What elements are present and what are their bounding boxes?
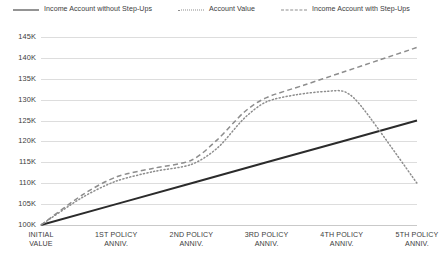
x-axis-tick-label-line2: ANNIV. xyxy=(78,240,154,249)
y-axis-tick-label: 125K xyxy=(2,117,36,124)
legend-item-income-account-without-step-ups: Income Account without Step-Ups xyxy=(13,6,152,13)
x-axis-tick-label-line2: ANNIV. xyxy=(304,240,380,249)
y-axis-tick-label: 110K xyxy=(2,179,36,186)
legend-swatch-dashed-icon xyxy=(281,6,307,13)
series-lines xyxy=(41,37,417,225)
x-axis-tick-label-line1: 5TH POLICY xyxy=(379,231,443,240)
y-axis-tick-label: 115K xyxy=(2,158,36,165)
x-axis: INITIALVALUE1ST POLICYANNIV.2ND POLICYAN… xyxy=(41,231,417,257)
legend-item-income-account-with-step-ups: Income Account with Step-Ups xyxy=(281,6,410,13)
series-line-dotted xyxy=(41,91,417,225)
y-axis-tick-label: 130K xyxy=(2,96,36,103)
y-axis-tick-label: 140K xyxy=(2,54,36,61)
x-axis-tick-label-line1: 3RD POLICY xyxy=(229,231,305,240)
x-axis-tick-label-line2: ANNIV. xyxy=(229,240,305,249)
x-axis-tick-label-line2: VALUE xyxy=(3,240,79,249)
y-axis-tick-label: 100K xyxy=(2,221,36,228)
x-axis-tick-label: 3RD POLICYANNIV. xyxy=(229,231,305,250)
y-axis-tick-label: 105K xyxy=(2,200,36,207)
x-axis-tick-label: 2ND POLICYANNIV. xyxy=(153,231,229,250)
chart-legend: Income Account without Step-Ups Account … xyxy=(0,6,423,13)
x-axis-tick-label-line2: ANNIV. xyxy=(153,240,229,249)
legend-swatch-dotted-icon xyxy=(178,6,204,13)
x-axis-tick-label-line2: ANNIV. xyxy=(379,240,443,249)
x-axis-tick-label-line1: 1ST POLICY xyxy=(78,231,154,240)
axis-baseline xyxy=(41,225,417,226)
y-axis-tick-label: 135K xyxy=(2,75,36,82)
x-axis-tick-label-line1: 2ND POLICY xyxy=(153,231,229,240)
x-axis-tick-label-line1: INITIAL xyxy=(3,231,79,240)
x-axis-tick-label: 1ST POLICYANNIV. xyxy=(78,231,154,250)
y-axis: 145K140K135K130K125K120K115K110K105K100K xyxy=(0,37,36,225)
y-axis-tick-label: 145K xyxy=(2,33,36,40)
x-axis-tick-label-line1: 4TH POLICY xyxy=(304,231,380,240)
x-axis-tick-label: 4TH POLICYANNIV. xyxy=(304,231,380,250)
legend-label-account-value: Account Value xyxy=(209,6,255,13)
legend-label-income-account-with-step-ups: Income Account with Step-Ups xyxy=(312,6,410,13)
legend-item-account-value: Account Value xyxy=(178,6,255,13)
series-line-solid xyxy=(41,121,417,225)
x-axis-tick-label: 5TH POLICYANNIV. xyxy=(379,231,443,250)
x-axis-tick-label: INITIALVALUE xyxy=(3,231,79,250)
plot-area xyxy=(41,37,417,225)
legend-swatch-solid-icon xyxy=(13,6,39,13)
y-axis-tick-label: 120K xyxy=(2,137,36,144)
legend-label-income-account-without-step-ups: Income Account without Step-Ups xyxy=(44,6,152,13)
